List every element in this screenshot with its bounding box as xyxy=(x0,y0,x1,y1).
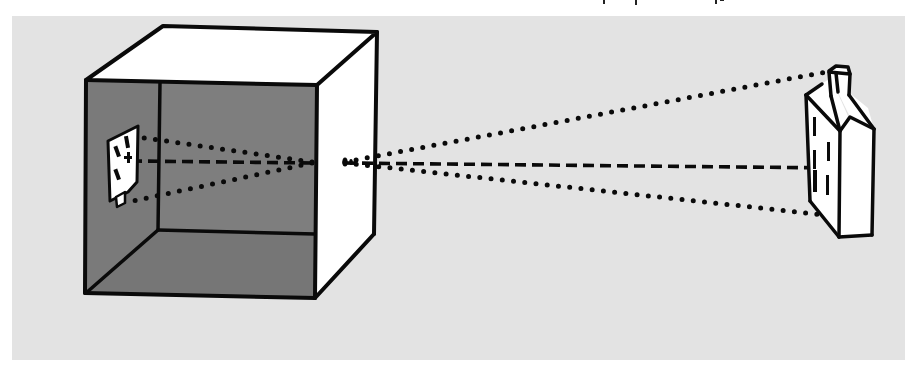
figure-canvas xyxy=(0,0,913,370)
house-gable-wall xyxy=(839,117,874,237)
box-back-wall xyxy=(158,82,317,234)
cropped-text-descenders xyxy=(603,0,724,5)
pinhole-camera-figure xyxy=(0,0,913,370)
